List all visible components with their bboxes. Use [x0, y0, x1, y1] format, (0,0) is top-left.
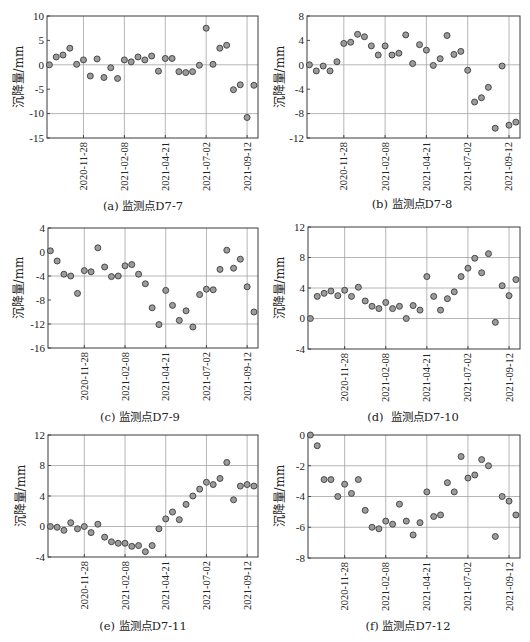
data-point [478, 95, 484, 101]
data-point [128, 59, 134, 65]
panel-e-y-axis-label: 沉降量/mm [11, 465, 28, 528]
data-point [244, 284, 250, 290]
data-point [492, 533, 498, 539]
data-point [410, 61, 416, 67]
data-point [417, 520, 423, 526]
panel-c-plot: 2020-11-282021-02-082021-04-212021-07-02… [30, 222, 258, 401]
data-point [163, 516, 169, 522]
data-point [47, 524, 53, 530]
data-point [492, 319, 498, 325]
data-point [375, 52, 381, 58]
data-point [108, 539, 114, 545]
data-point [465, 67, 471, 73]
data-point [54, 524, 60, 530]
data-point [403, 32, 409, 38]
x-tick-label: 2021-07-02 [201, 142, 212, 191]
y-tick-label: 4 [299, 34, 305, 46]
data-point [417, 42, 423, 48]
y-tick-label: 0 [40, 246, 46, 258]
data-point [513, 119, 519, 125]
y-tick-label: 4 [40, 490, 46, 502]
y-tick-label: -5 [35, 83, 45, 95]
data-point [162, 55, 168, 61]
data-point [115, 540, 121, 546]
y-tick-label: 0 [40, 520, 46, 532]
data-point [169, 55, 175, 61]
data-point [176, 69, 182, 75]
y-tick-label: -4 [296, 490, 306, 502]
y-tick-label: 0 [39, 59, 45, 71]
panel-f-caption: (f) 监测点D7-12 [366, 617, 451, 633]
panel-e-caption: (e) 监测点D7-11 [99, 617, 187, 633]
x-tick-label: 2021-02-08 [380, 353, 391, 402]
x-tick-label: 2021-07-02 [201, 561, 212, 610]
data-point [101, 74, 107, 80]
data-point [155, 68, 161, 74]
data-point [94, 56, 100, 62]
data-point [75, 290, 81, 296]
data-point [307, 432, 313, 438]
data-point [88, 530, 94, 536]
data-point [163, 287, 169, 293]
data-point [156, 526, 162, 532]
data-point [54, 258, 60, 264]
y-tick-label: -4 [36, 270, 46, 282]
data-point [327, 68, 333, 74]
data-point [382, 43, 388, 49]
data-point [75, 526, 81, 532]
x-tick-label: 2020-11-28 [79, 352, 90, 401]
panel-b-caption: (b) 监测点D7-8 [372, 195, 453, 211]
data-point [410, 532, 416, 538]
data-point [251, 309, 257, 315]
data-point [68, 520, 74, 526]
data-point [430, 62, 436, 68]
data-point [403, 316, 409, 322]
x-tick-label: 2021-04-21 [421, 353, 432, 402]
x-tick-label: 2021-02-08 [120, 352, 131, 401]
data-point [390, 521, 396, 527]
data-point [396, 303, 402, 309]
data-point [472, 472, 478, 478]
data-point [396, 501, 402, 507]
data-point [451, 489, 457, 495]
data-point [506, 498, 512, 504]
y-tick-label: -4 [36, 551, 46, 563]
y-tick-label: 12 [294, 221, 305, 233]
y-tick-label: -4 [296, 343, 306, 355]
data-point [224, 459, 230, 465]
panel-c-y-axis-label: 沉降量/mm [9, 257, 26, 320]
data-point [217, 475, 223, 481]
data-point [485, 463, 491, 469]
data-point [335, 494, 341, 500]
data-point [244, 482, 250, 488]
data-point [444, 480, 450, 486]
data-point [47, 248, 53, 254]
y-tick-label: -15 [29, 132, 44, 144]
y-tick-label: 5 [39, 34, 45, 46]
data-point [307, 316, 313, 322]
data-point [362, 298, 368, 304]
x-tick-label: 2021-07-02 [462, 562, 473, 611]
y-tick-label: -16 [30, 342, 45, 354]
y-tick-label: 12 [34, 429, 45, 441]
y-tick-label: -4 [295, 83, 305, 95]
data-point [341, 40, 347, 46]
data-point [362, 507, 368, 513]
data-point [368, 43, 374, 49]
data-point [465, 265, 471, 271]
data-point [348, 293, 354, 299]
panel-b-y-axis-label: 沉降量/mm [270, 46, 287, 109]
data-point [479, 270, 485, 276]
data-point [348, 490, 354, 496]
data-point [210, 61, 216, 67]
x-tick-label: 2020-11-28 [339, 353, 350, 402]
data-point [390, 306, 396, 312]
data-point [196, 62, 202, 68]
data-point [170, 509, 176, 515]
data-point [95, 521, 101, 527]
y-tick-label: 8 [40, 459, 46, 471]
data-point [513, 277, 519, 283]
data-point [320, 63, 326, 69]
panel-e-plot: 2020-11-282021-02-082021-04-212021-07-02… [34, 429, 258, 610]
data-point [321, 290, 327, 296]
